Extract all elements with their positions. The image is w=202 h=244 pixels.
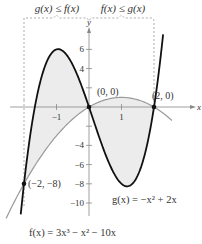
y-axis-label: y [86,17,91,27]
g-equation-label: g(x) = −x² + 2x [112,194,177,206]
x-tick-label: −1 [52,112,62,122]
intersection-dot [87,105,92,110]
bracket-right-label: f(x) ≤ g(x) [101,2,146,15]
figure-root: g(x) ≤ f(x) f(x) ≤ g(x) x y −1164−4−6−8−… [0,0,202,244]
x-tick-label: 1 [119,112,124,122]
point-label: (2, 0) [152,90,174,102]
intersection-dot [152,105,157,110]
intersection-dot [22,182,27,187]
f-equation-label: f(x) = 3x³ − x² − 10x [29,227,117,239]
y-tick-label: 6 [80,44,85,54]
point-label: (0, 0) [97,86,119,98]
point-label: (−2, −8) [28,178,61,190]
x-axis-label: x [196,102,201,112]
y-tick-label: −8 [74,179,84,189]
y-tick-label: 4 [80,64,85,74]
shaded-area [89,97,154,186]
plot-canvas: g(x) ≤ f(x) f(x) ≤ g(x) x y −1164−4−6−8−… [0,0,202,244]
y-tick-label: −4 [74,140,84,150]
y-axis-arrow-icon [87,27,91,33]
y-tick-label: −10 [70,198,85,208]
bracket-left-label: g(x) ≤ f(x) [35,2,80,15]
x-axis-arrow-icon [190,105,196,109]
y-tick-label: −6 [74,160,84,170]
